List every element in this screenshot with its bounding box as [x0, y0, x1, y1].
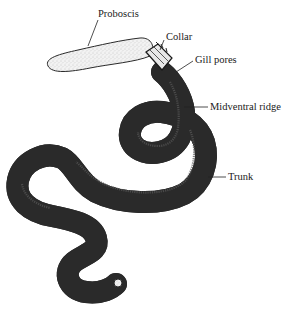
- trunk-shape: [17, 72, 206, 292]
- label-collar: Collar: [166, 31, 193, 42]
- label-midventral-ridge: Midventral ridge: [210, 101, 281, 112]
- label-trunk: Trunk: [228, 171, 254, 182]
- gill-pores-leader-line: [176, 61, 193, 72]
- acorn-worm-diagram: Proboscis Collar Gill pores Midventral r…: [0, 0, 291, 316]
- proboscis-leader-line: [88, 20, 98, 46]
- label-proboscis: Proboscis: [98, 8, 139, 19]
- proboscis-shape: [47, 38, 152, 72]
- label-gill-pores: Gill pores: [195, 54, 237, 65]
